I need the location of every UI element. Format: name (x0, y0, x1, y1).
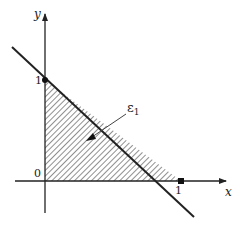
diagram-canvas: y x 0 1 1 ε1 (0, 0, 244, 231)
y-tick-label: 1 (35, 74, 42, 87)
boundary-line (12, 47, 194, 217)
shaded-region-e1 (45, 80, 181, 181)
point-y-intercept (42, 77, 48, 83)
region-label: ε1 (127, 100, 139, 117)
x-axis-label: x (225, 185, 232, 199)
y-axis-label: y (33, 7, 41, 21)
region-label-subscript: 1 (134, 107, 140, 117)
x-tick-label: 1 (175, 184, 182, 197)
origin-label: 0 (34, 167, 41, 180)
